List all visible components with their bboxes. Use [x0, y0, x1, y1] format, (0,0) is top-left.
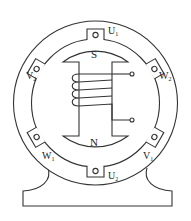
south-pole-label: S [91, 48, 97, 60]
generator-diagram: S N U1 W2 V1 U2 W1 V2 [0, 0, 191, 221]
slot-U2 [87, 166, 104, 177]
north-pole-label: N [90, 136, 98, 148]
slot-U1 [87, 29, 104, 40]
